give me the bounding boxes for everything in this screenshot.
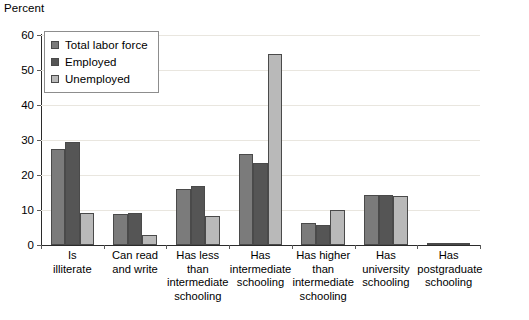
y-axis-tick <box>37 210 41 211</box>
x-axis-category-label-line: schooling <box>166 290 229 304</box>
x-axis-category-labels: IsilliterateCan readand writeHas lesstha… <box>41 249 480 319</box>
x-axis-category-label-line: than <box>292 263 355 277</box>
x-axis-category-label-line: intermediate <box>229 263 292 277</box>
bar <box>253 163 268 245</box>
bar-group <box>176 35 220 245</box>
bar <box>379 195 394 245</box>
x-axis-category-label: Can readand write <box>104 249 167 276</box>
x-axis-category-label: Hasuniversityschooling <box>355 249 418 290</box>
bar-group <box>301 35 345 245</box>
bar <box>456 243 471 245</box>
x-axis-category-label-line: Is <box>41 249 104 263</box>
bar <box>205 216 220 245</box>
y-axis-tick-label: 20 <box>21 169 34 181</box>
x-axis-category-label: Has lessthanintermediateschooling <box>166 249 229 303</box>
legend-swatch-icon <box>51 58 59 66</box>
chart-legend: Total labor forceEmployedUnemployed <box>44 31 159 93</box>
y-axis-tick-label: 60 <box>21 29 34 41</box>
x-axis-category-label-line: Has <box>229 249 292 263</box>
x-axis-category-label-line: postgraduate <box>417 263 480 277</box>
bar-chart: Percent 0102030405060 IsilliterateCan re… <box>0 0 529 320</box>
y-axis-tick-label: 0 <box>28 239 34 251</box>
x-axis-category-label-line: and write <box>104 263 167 277</box>
bar <box>301 223 316 245</box>
y-axis-tick <box>37 70 41 71</box>
bar <box>364 195 379 245</box>
bar <box>427 243 442 245</box>
bar <box>142 235 157 246</box>
bar <box>239 154 254 245</box>
x-axis-tick <box>480 245 481 249</box>
x-axis-category-label-line: schooling <box>292 290 355 304</box>
y-axis-tick <box>37 105 41 106</box>
bar <box>113 214 128 246</box>
x-axis-line <box>41 245 480 246</box>
y-axis-tick <box>37 35 41 36</box>
bar <box>393 196 408 245</box>
y-axis-tick-label: 40 <box>21 99 34 111</box>
bar <box>330 210 345 245</box>
x-axis-category-label-line: Has higher <box>292 249 355 263</box>
x-axis-category-label-line: illiterate <box>41 263 104 277</box>
x-axis-category-label-line: schooling <box>417 276 480 290</box>
bar-group <box>239 35 283 245</box>
legend-label: Total labor force <box>65 39 148 51</box>
x-axis-category-label-line: intermediate <box>292 276 355 290</box>
bar <box>176 189 191 245</box>
y-axis-tick <box>37 175 41 176</box>
bar <box>191 186 206 246</box>
bar <box>65 142 80 245</box>
x-axis-category-label-line: Can read <box>104 249 167 263</box>
x-axis-category-label-line: intermediate <box>166 276 229 290</box>
x-axis-category-label-line: Has <box>417 249 480 263</box>
legend-swatch-icon <box>51 41 59 49</box>
legend-swatch-icon <box>51 75 59 83</box>
x-axis-category-label: Isilliterate <box>41 249 104 276</box>
bar-group <box>364 35 408 245</box>
bar <box>128 213 143 245</box>
x-axis-category-label-line: schooling <box>355 276 418 290</box>
legend-item: Unemployed <box>51 70 148 87</box>
legend-label: Unemployed <box>65 73 130 85</box>
x-axis-category-label: Hasintermediateschooling <box>229 249 292 290</box>
y-axis-tick-label: 30 <box>21 134 34 146</box>
bar <box>441 243 456 245</box>
x-axis-category-label-line: Has less <box>166 249 229 263</box>
bar-group <box>427 35 471 245</box>
y-axis-tick-label: 50 <box>21 64 34 76</box>
y-axis-tick <box>37 140 41 141</box>
y-axis-title: Percent <box>4 2 44 14</box>
bar <box>51 149 66 245</box>
bar <box>80 213 95 245</box>
x-axis-category-label-line: schooling <box>229 276 292 290</box>
bar <box>268 54 283 245</box>
legend-item: Total labor force <box>51 36 148 53</box>
x-axis-category-label: Has higherthanintermediateschooling <box>292 249 355 303</box>
x-axis-category-label-line: Has <box>355 249 418 263</box>
legend-item: Employed <box>51 53 148 70</box>
legend-label: Employed <box>65 56 117 68</box>
x-axis-category-label-line: university <box>355 263 418 277</box>
bar <box>316 225 331 245</box>
y-axis-tick-label: 10 <box>21 204 34 216</box>
x-axis-category-label-line: than <box>166 263 229 277</box>
x-axis-category-label: Haspostgraduateschooling <box>417 249 480 290</box>
